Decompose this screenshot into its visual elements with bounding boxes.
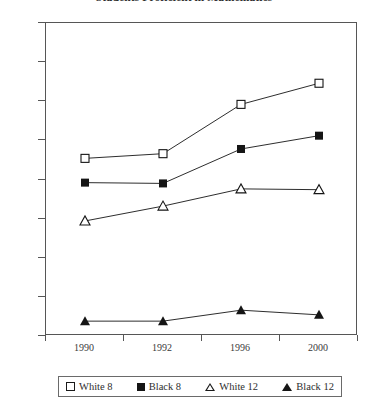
- plot-series-svg: [46, 23, 358, 336]
- series-black-8: [81, 132, 323, 188]
- x-tick-mark: [357, 335, 358, 341]
- series-line: [85, 136, 319, 184]
- y-tick-mark: [38, 22, 45, 23]
- series-line: [85, 189, 319, 221]
- y-tick-mark: [38, 257, 45, 258]
- x-tick-mark: [201, 335, 202, 341]
- x-tick-label: 1992: [132, 343, 192, 353]
- x-tick-label: 1990: [54, 343, 114, 353]
- x-tick-mark: [123, 335, 124, 341]
- triangle-filled-icon: [282, 383, 292, 391]
- data-point-marker: [81, 154, 89, 162]
- series-white-8: [81, 79, 323, 162]
- data-point-marker: [314, 185, 324, 194]
- series-black-12: [80, 305, 324, 325]
- data-point-marker: [236, 184, 246, 193]
- plot-area: [45, 22, 357, 335]
- data-point-marker: [315, 79, 323, 87]
- chart-legend: White 8Black 8White 12Black 12: [58, 376, 342, 397]
- square-open-icon: [66, 382, 75, 391]
- x-tick-mark: [45, 335, 46, 341]
- data-point-marker: [237, 100, 245, 108]
- legend-item-white-12[interactable]: White 12: [205, 381, 258, 392]
- data-point-marker: [315, 132, 323, 140]
- y-tick-mark: [38, 61, 45, 62]
- square-filled-icon: [137, 383, 145, 391]
- legend-item-white-8[interactable]: White 8: [66, 381, 113, 392]
- series-white-12: [80, 184, 324, 225]
- data-point-marker: [159, 150, 167, 158]
- legend-item-label: Black 12: [296, 381, 334, 392]
- legend-item-label: White 12: [219, 381, 258, 392]
- legend-item-black-8[interactable]: Black 8: [137, 381, 181, 392]
- y-tick-mark: [38, 218, 45, 219]
- y-tick-mark: [38, 100, 45, 101]
- series-line: [85, 310, 319, 321]
- data-point-marker: [80, 316, 90, 325]
- data-point-marker: [237, 145, 245, 153]
- triangle-open-icon: [205, 383, 215, 391]
- legend-item-label: Black 8: [149, 381, 181, 392]
- legend-item-black-12[interactable]: Black 12: [282, 381, 334, 392]
- data-point-marker: [236, 305, 246, 314]
- y-tick-mark: [38, 139, 45, 140]
- y-tick-mark: [38, 335, 45, 336]
- x-tick-label: 2000: [288, 343, 348, 353]
- x-tick-label: 1996: [210, 343, 270, 353]
- y-tick-mark: [38, 296, 45, 297]
- chart-title: Students Proficient in Mathematics: [0, 0, 368, 3]
- x-tick-mark: [279, 335, 280, 341]
- data-point-marker: [159, 179, 167, 187]
- legend-item-label: White 8: [79, 381, 113, 392]
- y-tick-mark: [38, 179, 45, 180]
- series-line: [85, 83, 319, 158]
- data-point-marker: [81, 179, 89, 187]
